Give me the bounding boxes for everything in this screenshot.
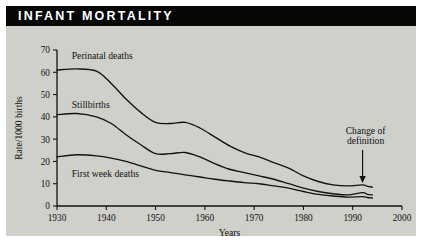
x-tick-label: 1990	[343, 213, 362, 223]
figure-panel: INFANT MORTALITY 010203040506070 1930194…	[6, 6, 416, 236]
series-label-3: First week deaths	[72, 168, 139, 179]
x-tick-label: 1960	[196, 213, 215, 223]
x-tick-label: 1970	[245, 213, 264, 223]
x-tick-label: 2000	[393, 213, 412, 223]
series-label-1: Perinatal deaths	[72, 50, 133, 61]
x-tick-label: 1940	[97, 213, 116, 223]
x-tick-label: 1980	[294, 213, 313, 223]
infant-mortality-line-chart: 010203040506070 193019401950196019701980…	[6, 26, 416, 236]
x-tick-label: 1950	[146, 213, 165, 223]
annotation-line-2: definition	[347, 135, 385, 146]
series-label-2: Stillbirths	[72, 99, 110, 110]
y-tick-label: 60	[41, 68, 51, 78]
page-title: INFANT MORTALITY	[18, 9, 174, 23]
x-axis-title: Years	[219, 227, 241, 236]
y-tick-label: 10	[41, 179, 51, 189]
y-tick-label: 50	[41, 90, 51, 100]
y-tick-label: 70	[41, 45, 51, 55]
y-axis-title: Rate/1000 births	[13, 96, 24, 160]
y-tick-label: 40	[41, 112, 51, 122]
chart-area: 010203040506070 193019401950196019701980…	[6, 26, 416, 236]
title-bar: INFANT MORTALITY	[6, 6, 416, 26]
annotation-arrow-head	[359, 176, 365, 183]
change-of-definition-annotation: Change ofdefinition	[346, 125, 387, 183]
x-tick-label: 1930	[48, 213, 67, 223]
y-tick-label: 20	[41, 157, 51, 167]
y-tick-label: 0	[45, 201, 50, 211]
y-axis-ticks: 010203040506070	[41, 45, 57, 211]
y-tick-label: 30	[41, 135, 51, 145]
x-axis-ticks: 19301940195019601970198019902000	[48, 206, 412, 223]
